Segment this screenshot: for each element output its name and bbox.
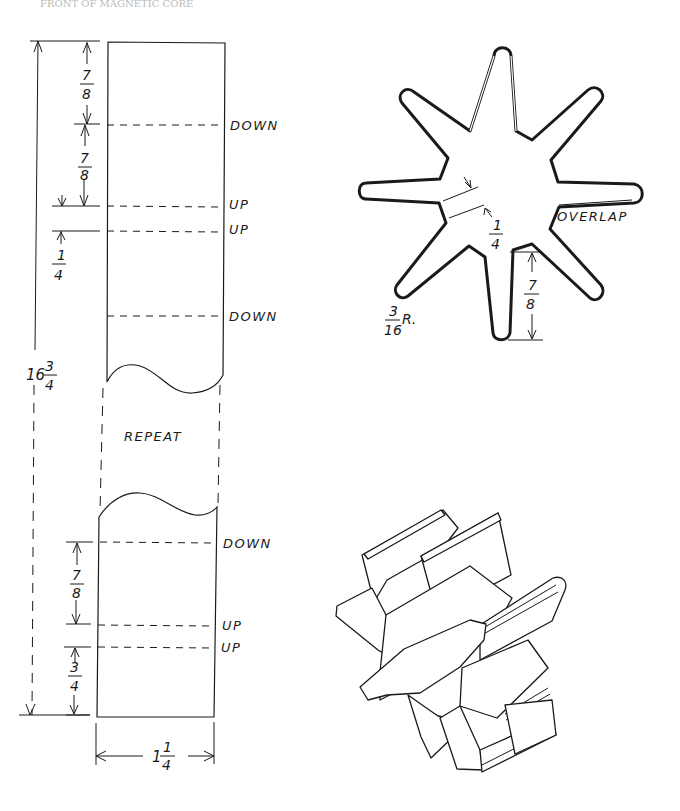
strip-lower-outline xyxy=(97,493,217,717)
repeat-right-edge xyxy=(218,385,220,505)
arm-length-dimension: 7 8 xyxy=(524,277,539,312)
svg-text:7: 7 xyxy=(82,67,91,83)
overlap-label: OVERLAP xyxy=(557,209,628,224)
segment-dimension: 3 4 xyxy=(68,659,82,694)
strip-upper-outline xyxy=(107,42,225,393)
svg-text:8: 8 xyxy=(82,86,91,102)
fold-line xyxy=(107,206,218,207)
svg-text:4: 4 xyxy=(491,236,500,252)
svg-text:4: 4 xyxy=(54,267,63,283)
fold-label: UP xyxy=(229,222,249,237)
svg-text:8: 8 xyxy=(80,167,89,183)
strip-dimensions: 16 3 4 7 8 7 8 xyxy=(19,41,214,773)
fold-label: DOWN xyxy=(223,536,272,551)
svg-text:7: 7 xyxy=(80,150,89,166)
folding-strip: REPEAT DOWN UP UP DOWN DOWN UP UP xyxy=(97,42,279,717)
svg-text:8: 8 xyxy=(72,585,81,601)
repeat-left-edge xyxy=(100,388,103,512)
fold-label: UP xyxy=(229,197,249,212)
svg-text:1: 1 xyxy=(493,217,502,233)
diagram-canvas: FRONT OF MAGNETIC CORE REPEAT DOWN UP UP… xyxy=(0,0,680,811)
fold-line xyxy=(107,231,218,232)
svg-text:4: 4 xyxy=(70,678,79,694)
fold-line xyxy=(98,647,212,648)
svg-text:3: 3 xyxy=(389,303,398,319)
tip-radius-dimension: 3 16 R. xyxy=(384,303,416,338)
svg-text:1: 1 xyxy=(163,739,172,755)
repeat-label: REPEAT xyxy=(124,429,182,444)
star-cross-section: OVERLAP 1 4 7 8 3 16 R. xyxy=(359,48,642,340)
svg-text:1: 1 xyxy=(152,748,162,766)
svg-text:3: 3 xyxy=(70,659,79,675)
svg-text:4: 4 xyxy=(45,377,54,393)
fold-label: DOWN xyxy=(229,309,278,324)
svg-text:8: 8 xyxy=(526,296,535,312)
fold-label: UP xyxy=(222,618,242,633)
fold-label: DOWN xyxy=(230,118,279,133)
gap-dimension: 1 4 xyxy=(52,247,66,283)
svg-text:4: 4 xyxy=(162,757,171,773)
segment-dimension: 7 8 xyxy=(80,67,94,102)
segment-dimension: 7 8 xyxy=(70,567,84,601)
svg-text:1: 1 xyxy=(57,247,66,263)
svg-text:16: 16 xyxy=(26,366,45,384)
fold-line xyxy=(98,625,212,626)
overall-length-dimension: 16 3 4 xyxy=(26,358,57,393)
svg-text:3: 3 xyxy=(45,358,54,374)
svg-text:R.: R. xyxy=(402,311,416,327)
star-outline xyxy=(359,48,642,340)
fold-label: UP xyxy=(221,640,241,655)
svg-text:7: 7 xyxy=(72,567,81,583)
fold-line xyxy=(100,542,214,543)
svg-text:16: 16 xyxy=(384,322,402,338)
width-dimension: 1 1 4 xyxy=(152,739,175,773)
isometric-star-view xyxy=(336,510,566,772)
page-header: FRONT OF MAGNETIC CORE xyxy=(40,0,193,9)
segment-dimension: 7 8 xyxy=(78,150,92,183)
svg-text:7: 7 xyxy=(528,277,537,293)
